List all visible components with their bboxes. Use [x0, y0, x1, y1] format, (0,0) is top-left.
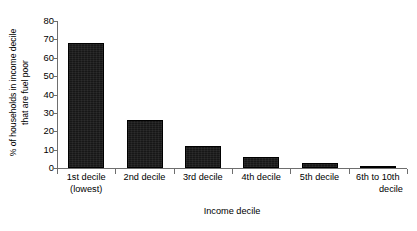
x-axis-tick-mark — [407, 169, 408, 174]
bar — [127, 120, 163, 168]
bar — [360, 166, 396, 169]
bar — [68, 43, 104, 168]
y-axis-tick-label: 70 — [36, 35, 54, 44]
x-axis-category-label-line-1: 5th decile — [290, 172, 348, 184]
x-axis-category-label-line-1: 3rd decile — [174, 172, 232, 184]
x-axis-category-label: 2nd decile — [115, 172, 173, 184]
x-axis-category-label: 5th decile — [290, 172, 348, 184]
y-axis-tick-label: 20 — [36, 127, 54, 136]
y-axis-title: % of households in income decile that ar… — [0, 0, 40, 185]
y-axis-tick-label: 10 — [36, 145, 54, 154]
bar — [243, 157, 279, 168]
y-axis-tick-label: 50 — [36, 71, 54, 80]
x-axis-category-label: 3rd decile — [174, 172, 232, 184]
y-axis-tick-label: 60 — [36, 53, 54, 62]
bar — [302, 163, 338, 169]
plot-area — [57, 21, 407, 168]
y-axis-tick-labels: 01020304050607080 — [36, 0, 54, 231]
y-axis-tick-label: 80 — [36, 16, 54, 25]
y-axis-tick-label: 0 — [36, 163, 54, 172]
x-axis-category-label: 4th decile — [232, 172, 290, 184]
x-axis-category-label-line-2: decile — [349, 184, 407, 196]
x-axis-category-label: 1st decile(lowest) — [57, 172, 115, 195]
y-axis-tick-label: 30 — [36, 108, 54, 117]
bar — [185, 146, 221, 168]
x-axis-category-label: 6th to 10thdecile — [349, 172, 407, 195]
y-axis-title-line-2: that are fuel poor — [20, 29, 32, 157]
y-axis-title-line-1: % of households in income decile — [9, 29, 21, 157]
x-axis-category-label-line-1: 1st decile — [57, 172, 115, 184]
bar-chart: % of households in income decile that ar… — [0, 0, 417, 231]
x-axis-category-label-line-2: (lowest) — [57, 184, 115, 196]
x-axis-category-label-line-1: 4th decile — [232, 172, 290, 184]
x-axis-title: Income decile — [57, 206, 407, 217]
x-axis-category-label-line-1: 6th to 10th — [349, 172, 407, 184]
bar-series — [57, 21, 407, 168]
x-axis-category-label-line-1: 2nd decile — [115, 172, 173, 184]
y-axis-tick-label: 40 — [36, 90, 54, 99]
